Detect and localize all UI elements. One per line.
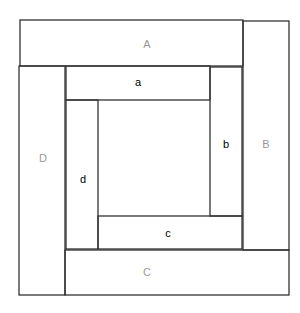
label-D: D <box>39 152 47 164</box>
outer-right-block-B <box>243 21 289 250</box>
outer-top-block-A <box>20 20 243 66</box>
label-d: d <box>80 173 86 185</box>
label-a: a <box>135 76 142 88</box>
label-C: C <box>143 266 151 278</box>
label-c: c <box>165 227 171 239</box>
label-A: A <box>143 38 151 50</box>
outer-bottom-block-C <box>65 250 289 295</box>
label-b: b <box>223 138 229 150</box>
log-cabin-diagram: A B C D a b c d <box>0 0 300 313</box>
label-B: B <box>262 138 269 150</box>
outer-left-block-D <box>19 66 65 295</box>
